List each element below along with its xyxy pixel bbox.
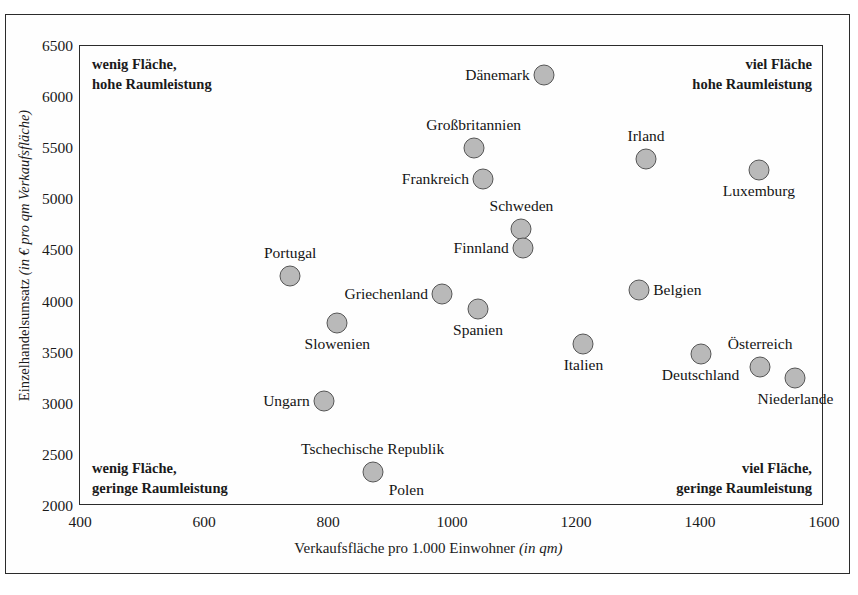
quadrant-tr-line1: viel Fläche <box>692 54 812 74</box>
data-point-label: Spanien <box>453 321 503 339</box>
data-point-marker[interactable] <box>327 313 348 334</box>
data-point-label: Slowenien <box>305 335 370 353</box>
data-point-marker[interactable] <box>750 356 771 377</box>
y-tick-label: 4000 <box>42 293 73 311</box>
x-tick-label: 400 <box>68 513 91 531</box>
data-point-label: Ungarn <box>263 392 310 410</box>
x-tick-label: 1600 <box>809 513 840 531</box>
y-axis-title-main: Einzelhandelsumsatz <box>16 275 32 401</box>
quadrant-caption-top-right: viel Fläche hohe Raumleistung <box>692 54 812 94</box>
y-tick-label: 2500 <box>42 446 73 464</box>
quadrant-tl-line2: hohe Raumleistung <box>92 74 212 94</box>
y-tick-label: 3500 <box>42 344 73 362</box>
quadrant-caption-top-left: wenig Fläche, hohe Raumleistung <box>92 54 212 94</box>
x-tick-label: 800 <box>316 513 339 531</box>
quadrant-bl-line1: wenig Fläche, <box>92 458 228 478</box>
data-point-label: Dänemark <box>465 66 530 84</box>
data-point-label: Großbritannien <box>426 116 521 134</box>
data-point-label: Portugal <box>264 244 317 262</box>
quadrant-br-line1: viel Fläche, <box>676 458 812 478</box>
data-point-marker[interactable] <box>748 159 769 180</box>
data-point-marker[interactable] <box>629 280 650 301</box>
data-point-marker[interactable] <box>573 334 594 355</box>
x-tick-label: 1400 <box>685 513 716 531</box>
data-point-label: Italien <box>564 356 604 374</box>
x-axis-title-main: Verkaufsfläche pro 1.000 Einwohner <box>294 540 519 556</box>
data-point-label: Griechenland <box>345 285 429 303</box>
data-point-label: Polen <box>389 481 424 499</box>
quadrant-tl-line1: wenig Fläche, <box>92 54 212 74</box>
y-tick-label: 5500 <box>42 139 73 157</box>
x-axis-title: Verkaufsfläche pro 1.000 Einwohner (in q… <box>6 540 851 557</box>
data-point-marker[interactable] <box>473 168 494 189</box>
data-point-marker[interactable] <box>313 390 334 411</box>
quadrant-bl-line2: geringe Raumleistung <box>92 478 228 498</box>
data-point-marker[interactable] <box>468 298 489 319</box>
data-point-marker[interactable] <box>362 462 383 483</box>
y-tick-label: 6000 <box>42 88 73 106</box>
x-tick-label: 1200 <box>561 513 592 531</box>
data-point-label: Finnland <box>454 239 509 257</box>
quadrant-caption-bottom-right: viel Fläche, geringe Raumleistung <box>676 458 812 498</box>
data-point-label: Schweden <box>490 197 554 215</box>
data-point-marker[interactable] <box>785 368 806 389</box>
data-point-label: Frankreich <box>402 170 469 188</box>
data-point-marker[interactable] <box>432 284 453 305</box>
quadrant-tr-line2: hohe Raumleistung <box>692 74 812 94</box>
y-axis-title-unit: (in € pro qm Verkaufsfläche) <box>16 110 32 275</box>
data-point-label: Belgien <box>653 281 701 299</box>
data-point-label: Deutschland <box>662 366 739 384</box>
data-point-label: Tschechische Republik <box>301 440 444 458</box>
data-point-marker[interactable] <box>636 149 657 170</box>
quadrant-caption-bottom-left: wenig Fläche, geringe Raumleistung <box>92 458 228 498</box>
data-point-marker[interactable] <box>533 64 554 85</box>
figure-frame: Einzelhandelsumsatz (in € pro qm Verkauf… <box>5 14 850 574</box>
y-tick-label: 3000 <box>42 395 73 413</box>
data-point-marker[interactable] <box>463 138 484 159</box>
quadrant-br-line2: geringe Raumleistung <box>676 478 812 498</box>
x-tick-label: 1000 <box>437 513 468 531</box>
data-point-label: Österreich <box>728 335 793 353</box>
data-point-marker[interactable] <box>690 343 711 364</box>
plot-area: wenig Fläche, hohe Raumleistung viel Flä… <box>79 45 823 505</box>
x-axis-title-unit: (in qm) <box>519 540 563 556</box>
x-tick-label: 600 <box>192 513 215 531</box>
data-point-label: Irland <box>628 127 665 145</box>
data-point-marker[interactable] <box>512 238 533 259</box>
data-point-marker[interactable] <box>511 218 532 239</box>
y-tick-label: 4500 <box>42 241 73 259</box>
data-point-label: Niederlande <box>758 390 834 408</box>
data-point-label: Luxemburg <box>723 182 795 200</box>
y-tick-label: 6500 <box>42 37 73 55</box>
y-tick-label: 5000 <box>42 190 73 208</box>
y-axis-title: Einzelhandelsumsatz (in € pro qm Verkauf… <box>16 36 33 476</box>
data-point-marker[interactable] <box>280 266 301 287</box>
